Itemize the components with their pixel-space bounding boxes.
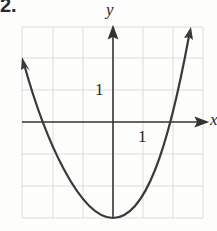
parabola-graph — [0, 0, 217, 231]
y-tick-label: 1 — [95, 80, 104, 100]
figure-number: 2. — [0, 0, 17, 17]
y-axis-label: y — [106, 0, 114, 20]
axes — [22, 27, 207, 218]
x-axis-label: x — [210, 110, 217, 130]
x-tick-label: 1 — [138, 127, 147, 147]
parabola-curve — [24, 36, 189, 218]
